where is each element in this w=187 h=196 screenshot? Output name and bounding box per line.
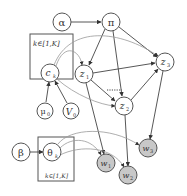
edge-z3-w3 — [150, 71, 163, 139]
graphical-model-diagram: k∈[1,K] k∈[1,K] α π — [0, 0, 187, 196]
node-z-2: z 2 — [115, 97, 133, 115]
edge-pi-z1 — [89, 29, 105, 65]
svg-text:π: π — [108, 17, 115, 28]
node-z-1: z 1 — [75, 65, 93, 83]
node-theta-k: θ k — [43, 143, 61, 161]
svg-text:w: w — [101, 159, 108, 168]
svg-text:z: z — [79, 69, 85, 79]
svg-text:2: 2 — [130, 175, 133, 181]
edge-z2-z3 — [131, 69, 158, 100]
svg-text:w: w — [123, 171, 130, 180]
curve-ck-z1 — [56, 51, 82, 66]
node-beta: β — [12, 143, 30, 161]
node-c-k: c k — [41, 64, 59, 82]
node-w-1: w 1 — [97, 154, 115, 172]
svg-text:3: 3 — [150, 148, 153, 154]
node-pi: π — [102, 13, 120, 31]
svg-text:1: 1 — [86, 74, 89, 80]
edge-z1-z3 — [93, 63, 155, 73]
svg-text:1: 1 — [108, 163, 111, 169]
svg-text:z: z — [160, 57, 166, 67]
svg-text:α: α — [59, 17, 66, 28]
edge-mu0-ck — [46, 82, 49, 102]
svg-text:0: 0 — [73, 112, 76, 118]
node-w-3: w 3 — [139, 139, 157, 157]
svg-text:θ: θ — [47, 148, 52, 158]
edge-z2-w2 — [125, 115, 128, 166]
svg-text:β: β — [18, 147, 24, 158]
svg-text:k: k — [53, 73, 56, 79]
svg-text:2: 2 — [126, 106, 129, 112]
edge-pi-z2 — [113, 31, 122, 96]
edge-z1-z2 — [91, 80, 115, 101]
svg-text:k: k — [55, 153, 58, 159]
plate-theta-label: k∈[1,K] — [45, 172, 69, 179]
svg-text:μ: μ — [40, 107, 45, 116]
svg-text:0: 0 — [47, 111, 50, 117]
svg-text:c: c — [45, 68, 50, 78]
node-alpha: α — [53, 13, 71, 31]
curve-thetak-w1 — [60, 140, 101, 155]
plate-c-label: k∈[1,K] — [33, 40, 60, 48]
edge-V0-ck — [55, 81, 67, 103]
node-w-2: w 2 — [119, 166, 137, 184]
node-z-3: z 3 — [156, 53, 174, 71]
node-mu-0: μ 0 — [37, 103, 53, 119]
svg-text:w: w — [143, 144, 150, 153]
edge-z1-w1 — [86, 83, 104, 154]
node-V-0: V 0 — [63, 103, 79, 119]
svg-text:3: 3 — [167, 62, 170, 68]
svg-text:z: z — [119, 101, 125, 111]
edge-pi-z3 — [119, 27, 157, 57]
